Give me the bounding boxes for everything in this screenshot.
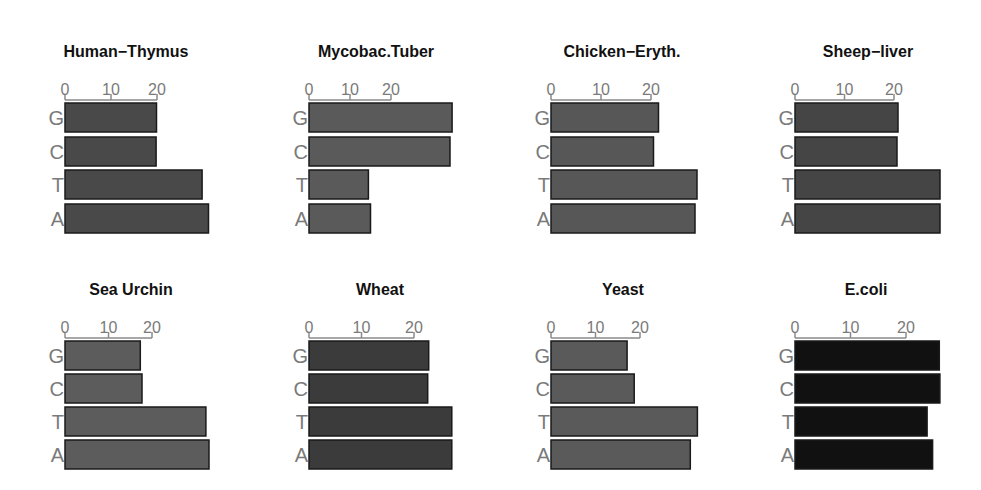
- bar-g: [795, 103, 898, 132]
- bar-g: [551, 103, 659, 132]
- category-label: T: [782, 174, 794, 196]
- category-label: A: [537, 444, 551, 466]
- bar-a: [795, 204, 940, 233]
- x-tick-label: 10: [353, 319, 371, 336]
- x-tick-label: 0: [61, 81, 70, 98]
- bar-a: [309, 440, 452, 469]
- category-label: G: [292, 107, 308, 129]
- chart-panel: Mycobac.Tuber01020GCTA: [292, 43, 452, 233]
- category-label: G: [534, 345, 550, 367]
- x-tick-label: 20: [885, 81, 903, 98]
- bar-c: [65, 374, 142, 403]
- category-label: G: [778, 107, 794, 129]
- panel-title: Chicken−Eryth.: [564, 43, 681, 60]
- panel-title: Mycobac.Tuber: [318, 43, 434, 60]
- bar-c: [551, 374, 634, 403]
- x-tick-label: 0: [791, 81, 800, 98]
- bar-t: [551, 170, 697, 199]
- category-label: G: [48, 345, 64, 367]
- bar-a: [65, 204, 209, 233]
- x-tick-label: 0: [305, 81, 314, 98]
- panel-title: Wheat: [356, 281, 405, 298]
- bar-a: [309, 204, 371, 233]
- bar-c: [309, 137, 450, 166]
- x-tick-label: 20: [897, 319, 915, 336]
- chart-panel: Sheep−liver01020GCTA: [778, 43, 940, 233]
- category-label: G: [48, 107, 64, 129]
- panel-title: Sea Urchin: [89, 281, 173, 298]
- category-label: A: [295, 444, 309, 466]
- category-label: A: [537, 208, 551, 230]
- bar-g: [65, 341, 140, 370]
- bar-t: [309, 170, 368, 199]
- x-tick-label: 10: [842, 319, 860, 336]
- x-tick-label: 10: [587, 319, 605, 336]
- category-label: T: [538, 411, 550, 433]
- bar-t: [65, 170, 202, 199]
- x-tick-label: 20: [405, 319, 423, 336]
- bar-t: [65, 407, 206, 436]
- bar-g: [795, 341, 939, 370]
- x-tick-label: 20: [143, 319, 161, 336]
- category-label: C: [780, 141, 794, 163]
- bar-g: [65, 103, 157, 132]
- category-label: C: [536, 378, 550, 400]
- category-label: C: [780, 378, 794, 400]
- x-tick-label: 0: [547, 81, 556, 98]
- chart-panel: Wheat01020GCTA: [292, 281, 451, 469]
- category-label: T: [296, 174, 308, 196]
- x-tick-label: 20: [382, 81, 400, 98]
- bar-c: [795, 137, 897, 166]
- category-label: G: [534, 107, 550, 129]
- bar-g: [309, 341, 429, 370]
- category-label: C: [294, 141, 308, 163]
- x-tick-label: 10: [592, 81, 610, 98]
- bar-a: [65, 440, 209, 469]
- bar-c: [795, 374, 940, 403]
- category-label: T: [52, 411, 64, 433]
- panel-title: Human−Thymus: [64, 43, 189, 60]
- category-label: G: [292, 345, 308, 367]
- chart-panel: E.coli01020GCTA: [778, 281, 939, 469]
- bar-g: [551, 341, 627, 370]
- x-tick-label: 10: [341, 81, 359, 98]
- category-label: G: [778, 345, 794, 367]
- bar-t: [551, 407, 697, 436]
- bar-c: [309, 374, 428, 403]
- category-label: C: [294, 378, 308, 400]
- bar-a: [795, 440, 933, 469]
- category-label: C: [50, 378, 64, 400]
- chart-panel: Sea Urchin01020GCTA: [48, 281, 209, 469]
- bar-a: [551, 204, 695, 233]
- category-label: A: [51, 444, 65, 466]
- chart-panel: Chicken−Eryth.01020GCTA: [534, 43, 697, 233]
- x-tick-label: 10: [100, 319, 118, 336]
- chart-panel: Yeast01020GCTA: [534, 281, 697, 469]
- category-label: T: [782, 411, 794, 433]
- x-tick-label: 10: [836, 81, 854, 98]
- category-label: T: [296, 411, 308, 433]
- bar-c: [65, 137, 156, 166]
- x-tick-label: 20: [642, 81, 660, 98]
- category-label: A: [781, 208, 795, 230]
- panel-title: Yeast: [602, 281, 644, 298]
- x-tick-label: 0: [791, 319, 800, 336]
- x-tick-label: 0: [547, 319, 556, 336]
- category-label: C: [50, 141, 64, 163]
- bar-a: [551, 440, 690, 469]
- category-label: T: [52, 174, 64, 196]
- category-label: A: [51, 208, 65, 230]
- bar-c: [551, 137, 654, 166]
- bar-t: [795, 407, 927, 436]
- dna-base-composition-small-multiples: Human−Thymus01020GCTAMycobac.Tuber01020G…: [0, 0, 981, 490]
- bar-g: [309, 103, 452, 132]
- x-tick-label: 20: [631, 319, 649, 336]
- x-tick-label: 0: [61, 319, 70, 336]
- category-label: T: [538, 174, 550, 196]
- x-tick-label: 0: [305, 319, 314, 336]
- chart-panel: Human−Thymus01020GCTA: [48, 43, 208, 233]
- category-label: A: [781, 444, 795, 466]
- panel-title: Sheep−liver: [823, 43, 913, 60]
- x-tick-label: 10: [102, 81, 120, 98]
- bar-t: [795, 170, 940, 199]
